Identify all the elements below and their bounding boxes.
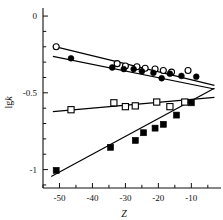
data-point-filled-circle: [159, 75, 165, 81]
data-point-filled-circle: [139, 68, 145, 74]
y-axis-title: lgk: [3, 96, 14, 109]
x-axis-title: Z: [121, 208, 127, 219]
x-tick-label: -50: [53, 193, 65, 203]
data-point-open-circle: [185, 68, 191, 74]
x-tick-label: -20: [152, 193, 164, 203]
data-point-open-square: [154, 99, 160, 105]
data-point-filled-circle: [193, 74, 199, 80]
data-point-filled-square: [53, 167, 59, 173]
data-point-open-square: [132, 103, 138, 109]
y-tick-label: -0.5: [23, 88, 38, 98]
chart-container: 0-0.5-1-50-40-30-20-10Zlgk: [0, 0, 223, 220]
data-point-filled-circle: [131, 66, 137, 72]
data-point-open-square: [182, 99, 188, 105]
data-point-filled-square: [141, 130, 147, 136]
series-filled-circles: [68, 55, 199, 81]
data-point-filled-square: [188, 100, 194, 106]
scatter-plot: 0-0.5-1-50-40-30-20-10Zlgk: [0, 0, 223, 220]
x-tick-label: -40: [86, 193, 98, 203]
data-point-filled-square: [174, 112, 180, 118]
data-point-filled-circle: [121, 66, 127, 72]
data-point-open-circle: [160, 68, 166, 74]
data-point-filled-circle: [167, 71, 173, 77]
x-tick-label: -30: [119, 193, 131, 203]
data-point-open-circle: [114, 61, 120, 67]
data-point-open-square: [122, 104, 128, 110]
data-point-filled-circle: [179, 73, 185, 79]
y-axis-title-text: lgk: [3, 96, 14, 109]
data-point-open-circle: [53, 44, 59, 50]
data-point-filled-circle: [109, 65, 115, 71]
y-tick-label: 0: [33, 11, 38, 21]
data-point-open-square: [167, 104, 173, 110]
data-point-open-square: [111, 100, 117, 106]
data-point-filled-square: [132, 137, 138, 143]
data-point-filled-circle: [68, 55, 74, 61]
data-point-filled-circle: [151, 70, 157, 76]
x-tick-label: -10: [185, 193, 197, 203]
data-point-open-square: [68, 107, 74, 113]
y-tick-label: -1: [30, 165, 38, 175]
data-point-filled-square: [160, 121, 166, 127]
data-point-filled-square: [108, 144, 114, 150]
data-point-filled-square: [152, 125, 158, 131]
